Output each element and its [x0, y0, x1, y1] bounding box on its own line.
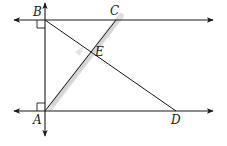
right-angle-mark-b [37, 20, 45, 28]
label-d: D [170, 113, 181, 127]
right-angle-mark-a [37, 103, 45, 111]
label-e: E [94, 45, 104, 59]
label-c: C [110, 4, 119, 18]
label-a: A [32, 113, 42, 127]
segment-ac [45, 20, 116, 111]
geometry-diagram: B C E A D [0, 0, 227, 146]
label-b: B [32, 5, 42, 19]
highlight-stroke [50, 16, 121, 108]
